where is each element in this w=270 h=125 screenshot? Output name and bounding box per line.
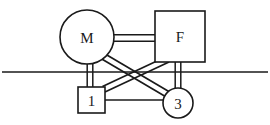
schematic-canvas: M F 1 3	[0, 0, 270, 125]
node-m-label: M	[80, 30, 93, 46]
link-m-to-f	[113, 35, 158, 41]
node-f-label: F	[176, 29, 184, 45]
node-one[interactable]: 1	[78, 87, 105, 113]
node-m[interactable]: M	[60, 10, 114, 64]
node-f[interactable]: F	[155, 11, 205, 62]
node-three[interactable]: 3	[163, 88, 193, 118]
node-three-label: 3	[174, 96, 182, 112]
node-one-label: 1	[88, 93, 96, 109]
schematic-diagram: M F 1 3	[0, 0, 270, 125]
